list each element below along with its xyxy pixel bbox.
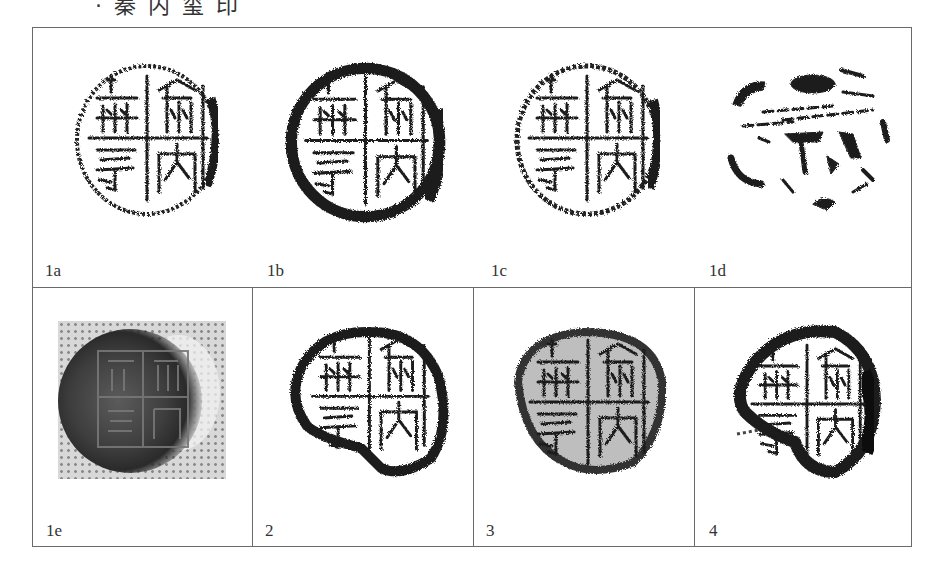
figure-caption-partial: ·秦内玺印 [95,0,250,19]
panel-1a: 1a [33,28,253,287]
bottom-row: 1e 2 3 4 [33,288,911,546]
seal-rubbing-4 [725,322,890,482]
panel-label: 2 [265,521,274,541]
panel-label: 4 [709,521,718,541]
panel-3: 3 [473,288,694,546]
seal-rubbing-1d [723,62,893,222]
panel-label: 1e [46,521,62,541]
panel-label: 1b [267,261,284,281]
seal-photograph-1e [58,321,226,479]
seal-rubbing-3 [504,322,669,477]
panel-1b: 1b [253,28,473,287]
panel-1e: 1e [33,288,252,546]
figure-frame: 1a 1b 1c [32,27,912,547]
seal-rubbing-1c [507,58,667,223]
panel-1d: 1d [693,28,911,287]
panel-4: 4 [694,288,911,546]
panel-1c: 1c [473,28,693,287]
panel-label: 1c [491,261,507,281]
panel-label: 1d [709,261,726,281]
panel-label: 3 [486,521,495,541]
seal-rubbing-2 [281,318,451,483]
top-row: 1a 1b 1c [33,28,911,288]
seal-rubbing-1b [283,58,448,228]
panel-2: 2 [252,288,473,546]
seal-rubbing-1a [67,58,227,223]
panel-label: 1a [45,261,61,281]
